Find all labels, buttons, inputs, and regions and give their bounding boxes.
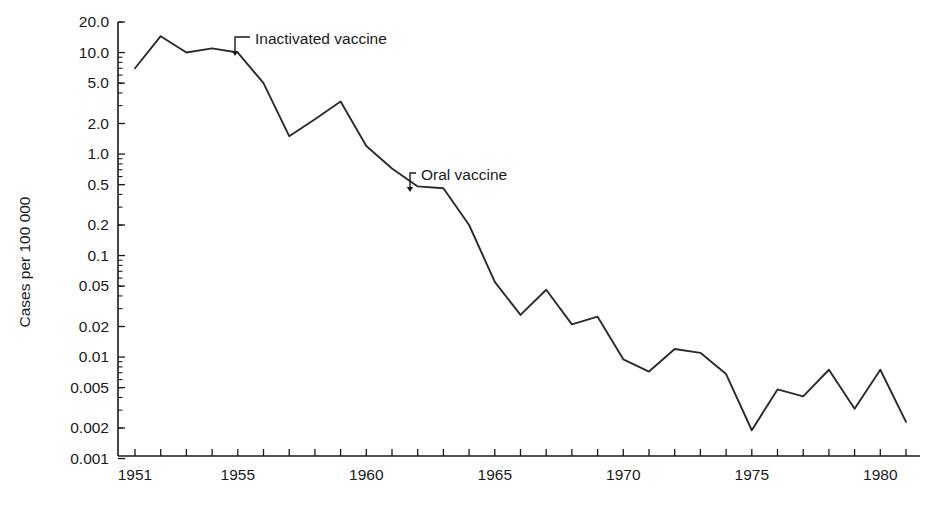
chart-svg: Cases per 100 000 20.010.05.02.01.00.50.… [0,0,934,521]
y-tick-label: 0.001 [70,450,109,467]
y-tick-label: 0.005 [70,379,109,396]
inactivated-vaccine-annotation: Inactivated vaccine [232,30,387,56]
y-tick-label: 0.5 [87,176,109,193]
y-tick-label: 0.01 [79,348,109,365]
x-axis-ticks [135,449,906,456]
x-tick-label: 1955 [221,466,255,483]
arrowhead-icon [407,187,413,192]
annotation-label: Oral vaccine [421,166,507,183]
y-tick-label: 0.002 [70,419,109,436]
y-tick-label: 0.1 [87,247,109,264]
y-tick-label: 10.0 [79,44,110,61]
inactivated-vaccine-leader [235,37,250,52]
y-tick-label: 20.0 [79,13,110,30]
x-tick-label: 1970 [606,466,641,483]
annotation-label: Inactivated vaccine [255,30,387,47]
y-tick-label: 1.0 [87,145,109,162]
x-tick-label: 1965 [478,466,512,483]
oral-vaccine-annotation: Oral vaccine [407,166,507,192]
x-axis-tick-labels: 1951195519601965197019751980 [118,466,898,483]
y-tick-label: 5.0 [87,74,109,91]
x-tick-label: 1975 [735,466,769,483]
y-tick-label: 0.02 [79,318,109,335]
chart-annotations: Inactivated vaccineOral vaccine [232,30,507,192]
y-axis-ticks [118,22,125,459]
y-tick-label: 0.2 [87,216,109,233]
polio-cases-series-line [135,36,906,430]
arrowhead-icon [232,51,238,56]
y-tick-label: 0.05 [79,277,109,294]
y-tick-label: 2.0 [87,115,109,132]
x-tick-label: 1951 [118,466,152,483]
x-tick-label: 1980 [863,466,898,483]
y-axis-title: Cases per 100 000 [16,196,33,327]
x-tick-label: 1960 [349,466,384,483]
y-axis-title-group: Cases per 100 000 [16,196,33,327]
y-axis-tick-labels: 20.010.05.02.01.00.50.20.10.050.020.010.… [70,13,109,467]
polio-incidence-chart: Cases per 100 000 20.010.05.02.01.00.50.… [0,0,934,521]
